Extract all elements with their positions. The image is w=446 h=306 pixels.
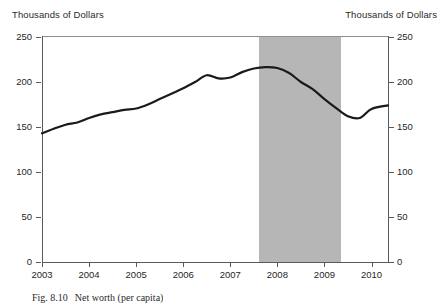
x-axis (42, 262, 389, 263)
data-line-chart (42, 37, 388, 262)
x-axis-label: 2009 (304, 269, 344, 280)
y-tick-right (389, 82, 394, 83)
x-axis-label: 2004 (69, 269, 109, 280)
caption-number: Fig. 8.10 (32, 292, 68, 303)
x-tick (324, 262, 325, 267)
x-axis-label: 2005 (116, 269, 156, 280)
y-tick-left (36, 82, 41, 83)
y-tick-left (36, 217, 41, 218)
x-axis-label: 2006 (163, 269, 203, 280)
right-axis-title: Thousands of Dollars (345, 9, 437, 20)
x-tick (230, 262, 231, 267)
y-tick-left (36, 127, 41, 128)
y-axis-label-right: 250 (397, 31, 427, 42)
x-tick (89, 262, 90, 267)
y-axis-label-left: 0 (2, 256, 32, 267)
series-line-net-worth (42, 67, 388, 133)
y-axis-label-left: 50 (2, 211, 32, 222)
y-tick-right (389, 217, 394, 218)
x-tick (183, 262, 184, 267)
x-axis-label: 2010 (352, 269, 392, 280)
x-axis-label: 2007 (210, 269, 250, 280)
x-axis-label: 2003 (22, 269, 62, 280)
caption-text: Net worth (per capita) (75, 292, 164, 303)
x-tick (372, 262, 373, 267)
y-axis-label-right: 0 (397, 256, 427, 267)
y-axis-label-left: 250 (2, 31, 32, 42)
y-axis-label-right: 50 (397, 211, 427, 222)
y-axis-label-right: 200 (397, 76, 427, 87)
x-tick (277, 262, 278, 267)
y-axis-label-right: 100 (397, 166, 427, 177)
y-tick-right (389, 262, 394, 263)
y-tick-right (389, 37, 394, 38)
x-tick (42, 262, 43, 267)
y-tick-right (389, 127, 394, 128)
figure-caption: Fig. 8.10Net worth (per capita) (32, 292, 163, 306)
left-axis-title: Thousands of Dollars (12, 9, 104, 20)
y-tick-left (36, 37, 41, 38)
y-tick-left (36, 262, 41, 263)
x-tick (136, 262, 137, 267)
y-axis-right (388, 36, 389, 263)
x-axis-label: 2008 (257, 269, 297, 280)
figure-container: Thousands of Dollars Thousands of Dollar… (0, 0, 446, 306)
y-axis-label-left: 200 (2, 76, 32, 87)
plot-area (42, 37, 388, 262)
y-tick-right (389, 172, 394, 173)
y-axis-label-right: 150 (397, 121, 427, 132)
y-axis-label-left: 100 (2, 166, 32, 177)
y-axis-label-left: 150 (2, 121, 32, 132)
y-tick-left (36, 172, 41, 173)
